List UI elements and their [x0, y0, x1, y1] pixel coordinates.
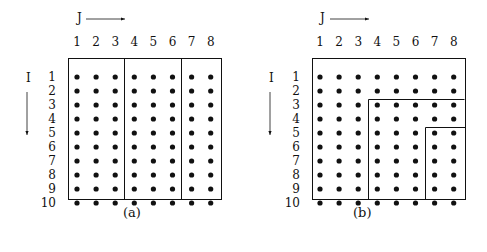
grid-point [432, 144, 437, 149]
grid-point [337, 88, 342, 93]
grid-frame-a [69, 59, 222, 200]
grid-point [432, 88, 437, 93]
row-label: 2 [292, 84, 300, 98]
grid-point [394, 102, 399, 107]
grid-point [375, 116, 380, 121]
grid-point [317, 186, 322, 191]
grid-point [317, 130, 322, 135]
row-label: 10 [41, 196, 56, 210]
grid-point [394, 116, 399, 121]
grid-point [189, 130, 194, 135]
grid-point [317, 172, 322, 177]
grid-point [394, 144, 399, 149]
grid-point [451, 200, 456, 205]
grid-point [317, 74, 322, 79]
grid-point [451, 186, 456, 191]
grid-point [394, 200, 399, 205]
grid-point [394, 88, 399, 93]
grid-point [375, 200, 380, 205]
grid-point [132, 130, 137, 135]
row-label: 9 [48, 182, 56, 196]
grid-point [451, 74, 456, 79]
grid-point [356, 88, 361, 93]
grid-point [189, 200, 194, 205]
grid-point [375, 158, 380, 163]
grid-point [132, 144, 137, 149]
j-axis-label-b: J [318, 11, 325, 25]
grid-point [208, 116, 213, 121]
grid-point [375, 144, 380, 149]
grid-point [170, 88, 175, 93]
grid-point [170, 102, 175, 107]
grid-point [189, 74, 194, 79]
column-label: 7 [188, 35, 196, 49]
grid-point [170, 186, 175, 191]
column-label: 8 [207, 35, 215, 49]
grid-point [451, 130, 456, 135]
grid-point [151, 88, 156, 93]
grid-point [375, 102, 380, 107]
row-label: 3 [292, 98, 300, 112]
grid-point [337, 144, 342, 149]
grid-point [132, 88, 137, 93]
grid-point [151, 200, 156, 205]
diagram-canvas: J 12345678 I 12345678910 (a) J 12345678 … [0, 0, 487, 252]
column-label: 7 [431, 35, 439, 49]
grid-point [151, 74, 156, 79]
staircase-region-2 [426, 128, 466, 200]
row-label: 4 [48, 112, 56, 126]
grid-point [94, 158, 99, 163]
row-label: 7 [48, 154, 56, 168]
grid-point [451, 88, 456, 93]
caption-b: (b) [353, 205, 371, 220]
column-label: 6 [169, 35, 177, 49]
row-label: 5 [48, 126, 56, 140]
grid-point [189, 102, 194, 107]
grid-point [375, 130, 380, 135]
grid-point [189, 88, 194, 93]
grid-point [413, 158, 418, 163]
grid-point [337, 172, 342, 177]
grid-point [113, 144, 118, 149]
grid-point [132, 186, 137, 191]
grid-point [208, 186, 213, 191]
caption-a: (a) [123, 205, 141, 220]
grid-point [356, 116, 361, 121]
column-label: 2 [92, 35, 100, 49]
row-label: 1 [292, 70, 300, 84]
grid-point [74, 74, 79, 79]
grid-point [94, 144, 99, 149]
grid-point [208, 200, 213, 205]
grid-point [413, 88, 418, 93]
row-label: 1 [48, 70, 56, 84]
grid-point [375, 172, 380, 177]
row-label: 4 [292, 112, 300, 126]
grid-point [170, 172, 175, 177]
point-grid-a [74, 74, 213, 205]
column-label: 8 [450, 35, 458, 49]
grid-point [394, 172, 399, 177]
grid-point [337, 200, 342, 205]
grid-point [170, 200, 175, 205]
grid-point [432, 130, 437, 135]
column-label: 4 [373, 35, 381, 49]
grid-point [394, 130, 399, 135]
row-label: 7 [292, 154, 300, 168]
grid-point [337, 186, 342, 191]
i-axis-label-b: I [269, 71, 274, 85]
grid-point [132, 172, 137, 177]
grid-point [94, 200, 99, 205]
grid-point [413, 116, 418, 121]
grid-point [151, 158, 156, 163]
grid-point [413, 144, 418, 149]
grid-point [394, 74, 399, 79]
grid-point [375, 74, 380, 79]
grid-point [113, 172, 118, 177]
grid-point [113, 88, 118, 93]
grid-point [432, 200, 437, 205]
row-label: 9 [292, 182, 300, 196]
grid-point [74, 130, 79, 135]
grid-point [132, 74, 137, 79]
grid-point [151, 186, 156, 191]
column-label: 2 [335, 35, 343, 49]
